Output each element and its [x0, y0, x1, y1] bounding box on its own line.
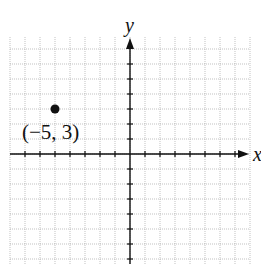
y-axis-label: y — [125, 14, 134, 37]
x-axis-label: x — [253, 143, 261, 166]
data-point — [51, 105, 60, 114]
point-label: (−5, 3) — [22, 120, 79, 145]
